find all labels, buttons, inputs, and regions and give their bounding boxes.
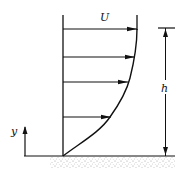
thickness-label: h <box>161 82 168 95</box>
y-axis-label: y <box>10 125 18 138</box>
velocity-profile-diagram: y U h <box>0 0 187 176</box>
free-stream-velocity-label: U <box>100 11 110 24</box>
dimension-arrowhead-down-icon <box>163 147 168 155</box>
velocity-profile-curve <box>63 29 137 156</box>
ground-surface <box>50 157 175 168</box>
y-axis-arrowhead-icon <box>23 126 28 134</box>
dimension-arrowhead-up-icon <box>163 29 168 37</box>
